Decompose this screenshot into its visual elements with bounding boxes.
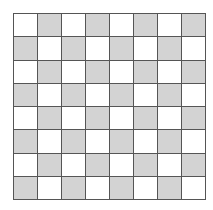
grid-cell bbox=[14, 84, 37, 106]
grid-cell bbox=[14, 130, 37, 152]
grid-cell bbox=[182, 37, 205, 59]
grid-cell bbox=[14, 177, 37, 199]
grid-cell bbox=[158, 107, 181, 129]
grid-cell bbox=[38, 84, 61, 106]
grid-cell bbox=[86, 84, 109, 106]
grid-cell bbox=[134, 130, 157, 152]
grid-cell bbox=[86, 61, 109, 83]
grid-cell bbox=[62, 84, 85, 106]
grid-cell bbox=[134, 154, 157, 176]
grid-cell bbox=[158, 37, 181, 59]
grid-cell bbox=[158, 177, 181, 199]
grid-cell bbox=[110, 177, 133, 199]
grid-cell bbox=[158, 61, 181, 83]
grid-cell bbox=[14, 154, 37, 176]
grid-cell bbox=[110, 84, 133, 106]
grid-cell bbox=[110, 107, 133, 129]
grid-cell bbox=[158, 84, 181, 106]
grid-cell bbox=[38, 177, 61, 199]
grid-cell bbox=[110, 37, 133, 59]
grid-cell bbox=[38, 154, 61, 176]
grid-cell bbox=[38, 14, 61, 36]
grid-cell bbox=[86, 14, 109, 36]
checkerboard-grid bbox=[13, 13, 206, 200]
grid-cell bbox=[110, 154, 133, 176]
grid-cell bbox=[134, 107, 157, 129]
grid-cell bbox=[134, 37, 157, 59]
grid-cell bbox=[38, 130, 61, 152]
grid-cell bbox=[134, 14, 157, 36]
grid-cell bbox=[182, 14, 205, 36]
grid-cell bbox=[14, 37, 37, 59]
grid-cell bbox=[134, 84, 157, 106]
grid-cell bbox=[182, 154, 205, 176]
grid-cell bbox=[182, 84, 205, 106]
grid-cell bbox=[62, 154, 85, 176]
grid-cell bbox=[62, 107, 85, 129]
grid-cell bbox=[182, 107, 205, 129]
grid-cell bbox=[14, 61, 37, 83]
grid-cell bbox=[62, 177, 85, 199]
grid-cell bbox=[86, 177, 109, 199]
grid-cell bbox=[86, 154, 109, 176]
grid-cell bbox=[38, 61, 61, 83]
grid-cell bbox=[110, 14, 133, 36]
grid-cell bbox=[62, 14, 85, 36]
grid-cell bbox=[134, 61, 157, 83]
grid-cell bbox=[158, 154, 181, 176]
grid-cell bbox=[14, 14, 37, 36]
grid-cell bbox=[38, 37, 61, 59]
grid-cell bbox=[158, 14, 181, 36]
grid-cell bbox=[62, 130, 85, 152]
grid-cell bbox=[14, 107, 37, 129]
grid-cell bbox=[86, 130, 109, 152]
grid-cell bbox=[182, 177, 205, 199]
grid-cell bbox=[38, 107, 61, 129]
grid-cell bbox=[182, 130, 205, 152]
grid-cell bbox=[110, 130, 133, 152]
grid-cell bbox=[86, 37, 109, 59]
grid-cell bbox=[134, 177, 157, 199]
grid-cell bbox=[182, 61, 205, 83]
grid-cell bbox=[62, 37, 85, 59]
grid-cell bbox=[110, 61, 133, 83]
grid-cell bbox=[86, 107, 109, 129]
grid-cell bbox=[62, 61, 85, 83]
grid-cell bbox=[158, 130, 181, 152]
